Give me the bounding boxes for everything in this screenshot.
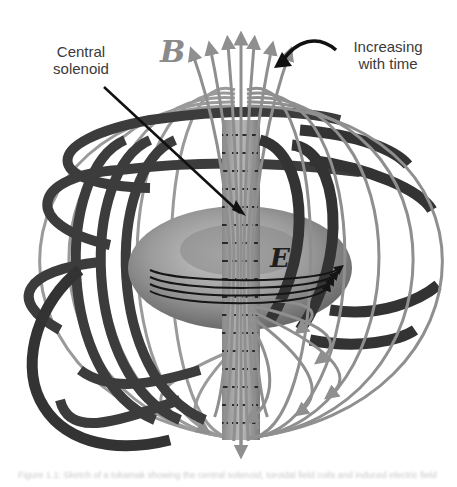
toroidal-coil [330, 285, 438, 312]
increasing-with-time-label: Increasing with time [338, 38, 438, 72]
figure-caption: Figure 1.1: Sketch of a tokamak showing … [18, 470, 448, 480]
magnetic-field-symbol: B [160, 34, 185, 69]
central-solenoid-label: Central solenoid [36, 43, 126, 77]
electric-field-symbol: E [270, 243, 290, 273]
increasing-arrow [282, 41, 336, 62]
